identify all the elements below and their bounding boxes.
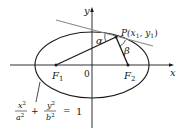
angle-beta-label: β [123, 45, 130, 56]
ellipse-diagram: y x 0 F1 F2 P(x1, y1) α β x2 a2 + y2 b2 … [0, 0, 188, 130]
svg-text:+: + [31, 106, 39, 116]
svg-text:y2: y2 [46, 100, 55, 110]
point-p-label: P(x1, y1) [120, 28, 158, 39]
origin-label: 0 [84, 69, 90, 79]
svg-text:=: = [63, 106, 71, 116]
focus-f2-label: F2 [123, 70, 135, 83]
angle-alpha-label: α [96, 35, 103, 46]
ellipse-equation: x2 a2 + y2 b2 = 1 [15, 100, 82, 122]
svg-text:b2: b2 [46, 112, 55, 122]
focus-f2-point [127, 64, 130, 67]
svg-text:x2: x2 [18, 100, 26, 110]
x-axis-label: x [170, 67, 176, 78]
svg-text:1: 1 [76, 106, 82, 117]
point-p [115, 36, 118, 39]
angle-alpha-arc [105, 34, 106, 42]
svg-text:a2: a2 [16, 112, 24, 122]
focus-f1-point [55, 64, 58, 67]
y-axis-arrow-icon [90, 7, 94, 12]
y-axis-label: y [83, 5, 90, 16]
focus-f1-label: F1 [51, 70, 63, 83]
focal-radius-f1 [56, 37, 116, 65]
equation-leader-line [36, 82, 40, 102]
